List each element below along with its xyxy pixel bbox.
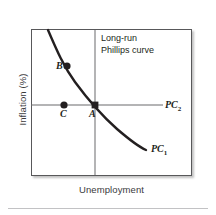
phillips-curve-figure: Long-run Phillips curve B C A PC2 PC1 In… bbox=[0, 0, 216, 215]
pc1-label-subscript: 1 bbox=[164, 149, 168, 157]
long-run-label-line1: Long-run bbox=[101, 33, 154, 45]
long-run-phillips-curve-label: Long-run Phillips curve bbox=[101, 33, 154, 56]
bottom-divider bbox=[8, 208, 208, 209]
x-axis-label: Unemployment bbox=[31, 184, 192, 195]
pc1-label: PC1 bbox=[151, 143, 167, 157]
data-point-B bbox=[63, 62, 70, 69]
pc2-label: PC2 bbox=[165, 99, 181, 113]
pc2-label-subscript: 2 bbox=[178, 105, 182, 113]
point-label-b: B bbox=[56, 60, 63, 71]
long-run-label-line2: Phillips curve bbox=[101, 45, 154, 57]
point-label-a: A bbox=[89, 108, 96, 119]
pc2-label-text: PC bbox=[165, 99, 178, 110]
point-label-c: C bbox=[60, 108, 67, 119]
pc1-label-text: PC bbox=[151, 143, 164, 154]
y-axis-label: Inflation (%) bbox=[17, 45, 28, 155]
